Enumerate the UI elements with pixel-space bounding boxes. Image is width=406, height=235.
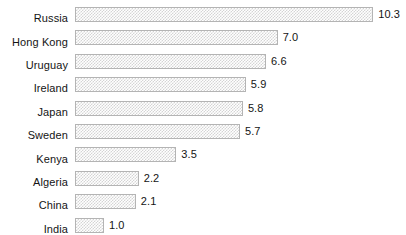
bar: [75, 147, 176, 162]
bar: [75, 124, 240, 139]
bar-track: 10.3: [75, 7, 406, 22]
bar: [75, 194, 136, 209]
bar-row: China2.1: [0, 194, 406, 218]
bar: [75, 7, 373, 22]
category-label: Hong Kong: [0, 37, 68, 48]
bar-track: 7.0: [75, 30, 406, 45]
bar-row: India1.0: [0, 218, 406, 235]
category-label: India: [0, 224, 68, 235]
bar-track: 2.1: [75, 194, 406, 209]
bar: [75, 218, 104, 233]
bar: [75, 77, 246, 92]
bar-row: Kenya3.5: [0, 147, 406, 171]
bar-chart: Russia10.3Hong Kong7.0Uruguay6.6Ireland5…: [0, 0, 406, 235]
value-label: 1.0: [109, 218, 125, 233]
bar-track: 1.0: [75, 218, 406, 233]
bar: [75, 171, 139, 186]
category-label: Uruguay: [0, 60, 68, 71]
category-label: Sweden: [0, 130, 68, 141]
value-label: 2.1: [141, 194, 157, 209]
category-label: Russia: [0, 13, 68, 24]
bar-row: Japan5.8: [0, 101, 406, 125]
value-label: 6.6: [271, 54, 287, 69]
value-label: 5.9: [251, 77, 267, 92]
bar-track: 6.6: [75, 54, 406, 69]
bar-row: Algeria2.2: [0, 171, 406, 195]
bar: [75, 101, 243, 116]
bar-row: Sweden5.7: [0, 124, 406, 148]
bar-row: Ireland5.9: [0, 77, 406, 101]
category-label: Kenya: [0, 154, 68, 165]
category-label: Japan: [0, 107, 68, 118]
value-label: 5.7: [245, 124, 261, 139]
category-label: Ireland: [0, 83, 68, 94]
category-label: China: [0, 200, 68, 211]
category-label: Algeria: [0, 177, 68, 188]
value-label: 10.3: [378, 7, 400, 22]
bar-row: Uruguay6.6: [0, 54, 406, 78]
value-label: 7.0: [283, 30, 299, 45]
value-label: 3.5: [181, 147, 197, 162]
bar: [75, 54, 266, 69]
value-label: 5.8: [248, 101, 264, 116]
bar-row: Hong Kong7.0: [0, 30, 406, 54]
value-label: 2.2: [144, 171, 160, 186]
bar-track: 5.9: [75, 77, 406, 92]
bar-track: 5.7: [75, 124, 406, 139]
bar: [75, 30, 278, 45]
bar-track: 2.2: [75, 171, 406, 186]
bar-row: Russia10.3: [0, 7, 406, 31]
bar-track: 5.8: [75, 101, 406, 116]
bar-track: 3.5: [75, 147, 406, 162]
